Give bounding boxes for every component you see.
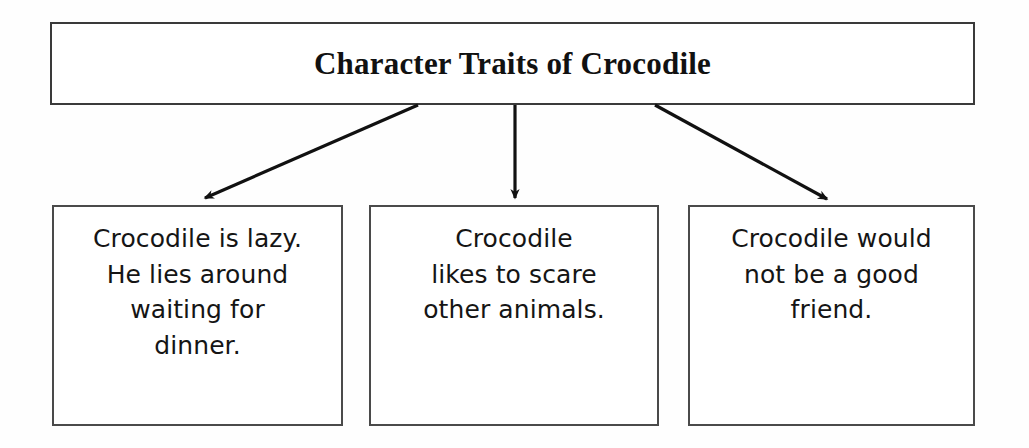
trait-line: Crocodile is lazy.	[62, 221, 333, 257]
trait-line: other animals.	[379, 292, 649, 328]
arrow-to-trait-3	[655, 105, 827, 199]
trait-line: not be a good	[698, 257, 965, 293]
arrow-to-trait-1	[205, 105, 418, 198]
trait-box-2: Crocodile likes to scare other animals.	[369, 205, 659, 426]
title-box: Character Traits of Crocodile	[50, 22, 975, 105]
trait-line: He lies around	[62, 257, 333, 293]
trait-box-1-text: Crocodile is lazy. He lies around waitin…	[62, 221, 333, 363]
trait-box-3-text: Crocodile would not be a good friend.	[698, 221, 965, 328]
trait-line: dinner.	[62, 328, 333, 364]
page-title: Character Traits of Crocodile	[314, 46, 711, 82]
trait-line: friend.	[698, 292, 965, 328]
diagram-canvas: Character Traits of Crocodile Crocodile …	[0, 0, 1029, 448]
trait-box-3: Crocodile would not be a good friend.	[688, 205, 975, 426]
trait-line: likes to scare	[379, 257, 649, 293]
trait-box-1: Crocodile is lazy. He lies around waitin…	[52, 205, 343, 426]
trait-line: Crocodile	[379, 221, 649, 257]
trait-line: Crocodile would	[698, 221, 965, 257]
trait-line: waiting for	[62, 292, 333, 328]
trait-box-2-text: Crocodile likes to scare other animals.	[379, 221, 649, 328]
